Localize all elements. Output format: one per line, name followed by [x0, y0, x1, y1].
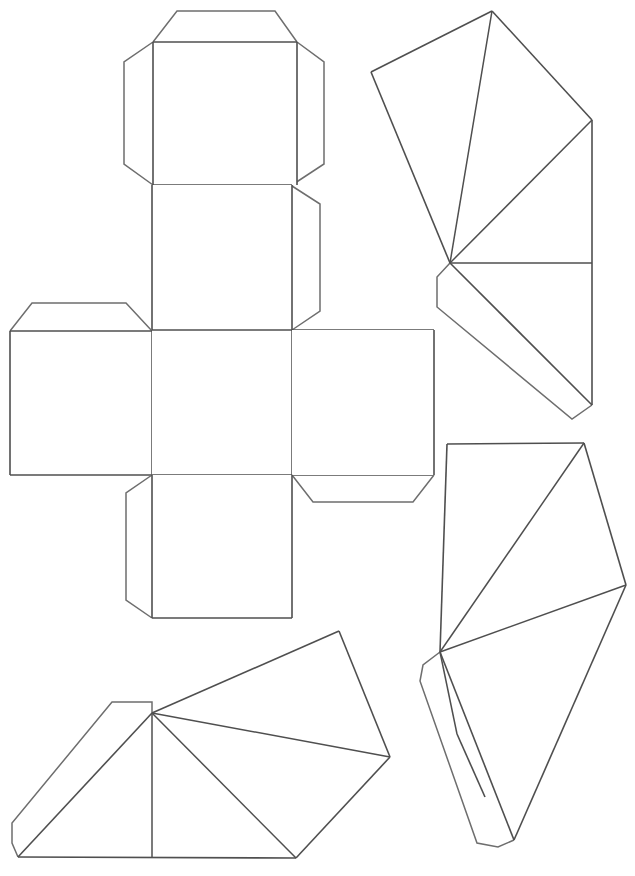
top-square-face — [153, 42, 297, 185]
bottom-square-face — [152, 475, 292, 618]
middle-square-face — [152, 330, 292, 475]
net-diagram — [0, 0, 635, 876]
right-square-face — [292, 330, 434, 475]
fan-lower-right-edge-top — [447, 443, 584, 444]
left-square-face — [10, 331, 152, 475]
papercraft-sheet: Papercraft Net Template — [0, 0, 635, 876]
fan-bottom-left-edge-bottom — [18, 857, 296, 858]
center-square-face — [152, 185, 292, 330]
